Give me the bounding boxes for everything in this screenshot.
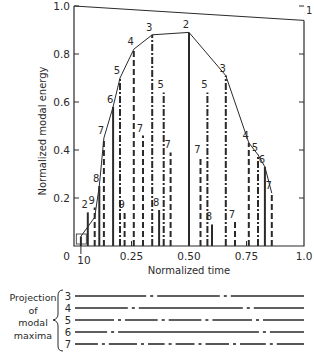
x-tick-label: 1.0 — [296, 250, 313, 262]
mode-label-5: 5 — [114, 65, 120, 76]
projection-row-label-6: 6 — [65, 327, 71, 338]
mode-1-label: 1 — [306, 5, 312, 16]
mode-label-8: 8 — [93, 173, 99, 184]
mode-label-5: 5 — [158, 79, 164, 90]
x-tick-label: 0.50 — [177, 250, 200, 262]
mode-label-3: 3 — [220, 63, 226, 74]
mode-label-4: 4 — [243, 130, 249, 141]
projection-row-label-5: 5 — [65, 315, 71, 326]
projection-label: modal — [18, 317, 48, 328]
mode-label-5: 5 — [201, 79, 207, 90]
projection-label: of — [28, 305, 38, 316]
mode-label-6: 6 — [259, 154, 265, 165]
y-tick-label: 1.0 — [53, 0, 70, 12]
mode-10-label: 10 — [77, 254, 90, 266]
mode-label-2: 2 — [82, 199, 88, 210]
projection-label: Projection — [10, 292, 57, 303]
mode-label-8: 8 — [206, 211, 212, 222]
x-tick-label: 0.25 — [120, 250, 143, 262]
y-tick-label: 0.8 — [53, 48, 70, 60]
projection-panel: Projectionofmodalmaxima34567 — [10, 290, 304, 351]
mode-label-4: 4 — [128, 36, 134, 47]
y-tick-label: 0.6 — [53, 96, 70, 108]
x-tick-label: 0.75 — [235, 250, 258, 262]
mode-label-3: 3 — [146, 22, 152, 33]
x-axis-label: Normalized time — [148, 265, 230, 276]
projection-row-label-7: 7 — [65, 339, 71, 350]
x-tick-label: 0 — [63, 250, 70, 262]
projection-label: maxima — [14, 330, 52, 341]
mode-label-7: 7 — [266, 180, 272, 191]
mode-label-2: 2 — [183, 19, 189, 30]
modal-energy-chart: 0.20.40.60.81.000.250.500.751.010Normali… — [0, 0, 314, 363]
projection-row-label-3: 3 — [65, 291, 71, 302]
y-tick-label: 0.4 — [53, 144, 70, 156]
y-tick-label: 0.2 — [53, 192, 70, 204]
mode-label-5: 5 — [252, 142, 258, 153]
mode-label-7: 7 — [137, 123, 143, 134]
mode-label-9: 9 — [118, 199, 124, 210]
mode-label-9: 9 — [89, 195, 95, 206]
mode-label-7: 7 — [229, 209, 235, 220]
mode-label-7: 7 — [98, 125, 104, 136]
y-axis-label: Normalized modal energy — [37, 66, 48, 195]
mode-1-decay-line — [74, 6, 304, 20]
mode-1-line: 1 — [74, 5, 312, 20]
mode-label-7: 7 — [164, 139, 170, 150]
mode-label-8: 8 — [153, 197, 159, 208]
mode-label-7: 7 — [194, 144, 200, 155]
projection-row-label-4: 4 — [65, 303, 71, 314]
mode-labels: 29876594738572758374567 — [82, 19, 272, 222]
mode-label-6: 6 — [107, 94, 113, 105]
